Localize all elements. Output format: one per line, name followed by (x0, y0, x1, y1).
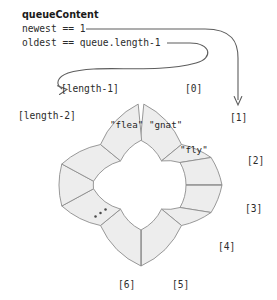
index-label-0: [0] (185, 83, 202, 94)
index-label-length-1: [length-1] (61, 83, 119, 94)
index-label-1: [1] (230, 112, 247, 123)
variable-newest: newest == 1 (22, 23, 86, 34)
index-label-4: [4] (218, 241, 235, 252)
index-label-2: [2] (247, 155, 264, 166)
index-label-6: [6] (118, 279, 135, 290)
circular-queue-diagram: queueContent newest == 1 oldest == queue… (0, 0, 277, 300)
figure-title: queueContent (22, 9, 99, 20)
index-label-3: [3] (245, 203, 262, 214)
cell-value-fly: "fly" (180, 144, 208, 155)
variable-oldest: oldest == queue.length-1 (22, 37, 161, 48)
figure-canvas: queueContent newest == 1 oldest == queue… (0, 0, 277, 300)
index-label-5: [5] (172, 279, 189, 290)
ring-segment-2[interactable] (180, 158, 222, 186)
cell-value-gnat: "gnat" (149, 119, 182, 130)
index-label-length-2: [length-2] (18, 110, 76, 121)
cell-value-flea: "flea" (110, 119, 143, 130)
